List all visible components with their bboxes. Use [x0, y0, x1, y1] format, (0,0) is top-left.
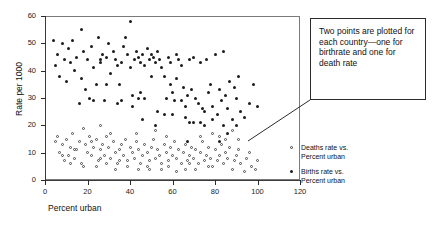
data-point-deaths: [152, 138, 155, 141]
legend-label-deaths-line2: Percent urban: [301, 152, 419, 161]
data-point-births: [192, 56, 195, 59]
data-point-deaths: [103, 154, 106, 157]
data-point-births: [214, 53, 217, 56]
y-tick-mark: [41, 153, 46, 154]
data-point-births: [61, 42, 64, 45]
data-point-deaths: [201, 140, 204, 143]
data-point-deaths: [199, 135, 202, 138]
data-point-births: [235, 124, 238, 127]
x-tick-mark: [88, 180, 89, 185]
data-point-births: [203, 124, 206, 127]
data-point-births: [233, 86, 236, 89]
data-point-deaths: [112, 140, 115, 143]
data-point-deaths: [114, 168, 117, 171]
y-tick-mark: [41, 125, 46, 126]
data-point-deaths: [205, 154, 208, 157]
data-point-births: [237, 75, 240, 78]
data-point-deaths: [197, 162, 200, 165]
data-point-births: [63, 58, 66, 61]
data-point-births: [80, 28, 83, 31]
x-axis-label: Percent urban: [48, 203, 101, 213]
data-point-births: [105, 83, 108, 86]
data-point-births: [116, 64, 119, 67]
data-point-births: [184, 116, 187, 119]
legend-label-births-line2: Percent urban: [301, 176, 419, 185]
data-point-deaths: [199, 151, 202, 154]
data-point-deaths: [148, 168, 151, 171]
data-point-deaths: [114, 151, 117, 154]
data-point-deaths: [69, 146, 72, 149]
data-point-deaths: [207, 146, 210, 149]
data-point-deaths: [192, 157, 195, 160]
data-point-deaths: [220, 143, 223, 146]
data-point-births: [186, 94, 189, 97]
data-point-deaths: [218, 154, 221, 157]
x-tick-label: 20: [73, 187, 103, 196]
data-point-deaths: [218, 135, 221, 138]
data-point-births: [256, 105, 259, 108]
filled-circle-marker-icon: [290, 170, 293, 173]
open-circle-marker-icon: [290, 146, 293, 149]
data-point-deaths: [150, 146, 153, 149]
y-tick-mark: [41, 16, 46, 17]
data-point-births: [199, 61, 202, 64]
x-tick-mark: [215, 180, 216, 185]
chart-legend: Deaths rate vs. Percent urban Births rat…: [289, 143, 419, 191]
data-point-births: [224, 94, 227, 97]
data-point-births: [69, 61, 72, 64]
data-point-deaths: [135, 132, 138, 135]
data-point-births: [118, 83, 121, 86]
data-point-deaths: [250, 165, 253, 168]
data-point-births: [101, 53, 104, 56]
data-point-births: [133, 58, 136, 61]
data-point-deaths: [163, 143, 166, 146]
data-point-deaths: [184, 168, 187, 171]
data-point-births: [163, 113, 166, 116]
data-point-births: [116, 102, 119, 105]
data-point-births: [184, 105, 187, 108]
data-point-deaths: [84, 143, 87, 146]
data-point-deaths: [67, 154, 70, 157]
data-point-deaths: [137, 168, 140, 171]
data-point-births: [180, 99, 183, 102]
data-point-births: [199, 121, 202, 124]
data-point-births: [105, 56, 108, 59]
data-point-deaths: [95, 165, 98, 168]
data-point-births: [129, 20, 132, 23]
data-point-deaths: [131, 151, 134, 154]
data-point-births: [167, 56, 170, 59]
data-point-deaths: [190, 146, 193, 149]
x-tick-label: 40: [115, 187, 145, 196]
data-point-deaths: [231, 168, 234, 171]
data-point-births: [54, 64, 57, 67]
legend-item-births[interactable]: Births rate vs. Percent urban: [289, 167, 419, 185]
y-tick-label: 60: [2, 12, 36, 20]
data-point-births: [218, 140, 221, 143]
data-point-births: [137, 97, 140, 100]
y-tick-mark: [41, 43, 46, 44]
x-tick-mark: [130, 180, 131, 185]
data-point-deaths: [105, 135, 108, 138]
data-point-deaths: [169, 146, 172, 149]
annotation-callout: Two points are plotted for each country—…: [310, 18, 426, 100]
data-point-deaths: [99, 157, 102, 160]
data-point-deaths: [171, 154, 174, 157]
data-point-births: [146, 47, 149, 50]
y-axis-label: Rate per 1000: [14, 34, 24, 144]
data-point-deaths: [165, 151, 168, 154]
data-point-births: [197, 102, 200, 105]
data-point-deaths: [226, 157, 229, 160]
data-point-births: [82, 50, 85, 53]
data-point-deaths: [65, 138, 68, 141]
data-point-births: [90, 45, 93, 48]
data-point-deaths: [129, 146, 132, 149]
data-point-births: [131, 105, 134, 108]
data-point-deaths: [73, 157, 76, 160]
data-point-births: [154, 124, 157, 127]
legend-item-deaths[interactable]: Deaths rate vs. Percent urban: [289, 143, 419, 161]
data-point-deaths: [133, 157, 136, 160]
data-point-births: [137, 56, 140, 59]
data-point-births: [243, 116, 246, 119]
data-point-deaths: [231, 129, 234, 132]
data-point-deaths: [248, 151, 251, 154]
